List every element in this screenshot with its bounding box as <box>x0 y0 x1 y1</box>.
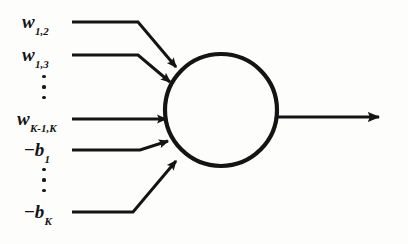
input-connection-group <box>72 22 176 212</box>
input-line-b-k <box>72 161 176 212</box>
label-base: b <box>35 139 45 160</box>
input-line-w-1-2 <box>72 22 176 67</box>
summation-node <box>165 54 277 166</box>
ellipsis-dot <box>42 168 45 171</box>
ellipsis-dot <box>42 189 45 192</box>
minus-sign: − <box>24 139 35 160</box>
label-subscript: 1,2 <box>35 25 49 37</box>
minus-sign: − <box>24 201 35 222</box>
label-bias-b-k: −bK <box>24 202 52 224</box>
label-weight-w-1-2: w1,2 <box>22 12 49 34</box>
diagram-canvas <box>0 0 408 244</box>
vertical-ellipsis-upper <box>41 75 47 99</box>
label-bias-b-1: −b1 <box>24 140 50 162</box>
label-base: w <box>17 108 30 129</box>
label-subscript: K-1,K <box>30 122 57 134</box>
label-subscript: 1,3 <box>35 58 49 70</box>
label-weight-w-1-3: w1,3 <box>22 45 49 67</box>
label-base: b <box>35 201 45 222</box>
label-subscript: 1 <box>45 153 51 165</box>
ellipsis-dot <box>42 96 45 99</box>
neuron-diagram-figure: w1,2 w1,3 wK-1,K −b1 −bK <box>0 0 408 244</box>
input-line-w-1-3 <box>72 55 170 82</box>
label-subscript: K <box>45 215 52 227</box>
ellipsis-dot <box>42 85 45 88</box>
label-base: w <box>22 44 35 65</box>
label-weight-w-k-minus-1-k: wK-1,K <box>17 109 56 131</box>
label-base: w <box>22 11 35 32</box>
vertical-ellipsis-lower <box>41 168 47 192</box>
input-line-b-1 <box>72 141 168 150</box>
ellipsis-dot <box>42 75 45 78</box>
ellipsis-dot <box>42 178 45 181</box>
